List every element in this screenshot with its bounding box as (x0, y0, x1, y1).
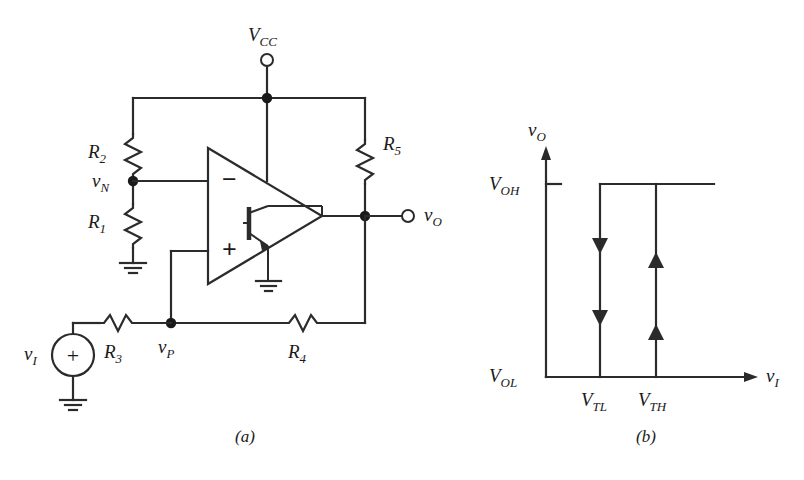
ground-symbol-r1 (120, 263, 146, 273)
resistor-R5-symbol (357, 140, 373, 184)
opamp-noninverting-sign: + (222, 235, 237, 264)
plot-label-VTL: VTL (581, 389, 607, 414)
up-arrow-icon-lower (648, 324, 664, 340)
resistor-R3-symbol (100, 315, 136, 331)
plot-label-VOH: VOH (489, 173, 520, 198)
plot-panel: vO vI VOH VOL VTL VTH (b) (489, 119, 779, 446)
plot-label-VOL: VOL (489, 365, 517, 390)
label-vcc: VCC (248, 24, 277, 49)
resistor-R1-symbol (125, 204, 141, 248)
source-polarity-sign: + (67, 343, 79, 368)
plot-label-VTH: VTH (638, 389, 667, 414)
resistor-R2-symbol (125, 134, 141, 178)
up-arrow-icon-upper (648, 252, 664, 268)
label-R2: R2 (87, 141, 107, 166)
ground-symbol-emitter (256, 281, 281, 291)
caption-a: (a) (235, 427, 255, 446)
caption-b: (b) (636, 427, 656, 446)
label-R1: R1 (87, 211, 106, 236)
down-arrow-icon-upper (592, 238, 608, 254)
resistor-R4-symbol (285, 315, 321, 331)
label-R5: R5 (382, 133, 402, 158)
figure-container: − + (0, 0, 804, 480)
x-axis-arrow-icon (744, 372, 758, 382)
label-vO: vO (424, 204, 442, 229)
label-vN: vN (92, 170, 110, 195)
label-vI: vI (24, 343, 37, 368)
label-vP: vP (158, 336, 174, 361)
junction-dot-vcc (262, 93, 272, 103)
opamp-inverting-sign: − (222, 165, 237, 194)
label-R4: R4 (287, 341, 307, 366)
plot-label-x-axis: vI (766, 365, 779, 390)
ground-symbol-source (60, 400, 86, 410)
output-terminal-icon[interactable] (402, 210, 414, 222)
plot-label-y-axis: vO (528, 119, 546, 144)
circuit-panel: − + (24, 24, 442, 446)
label-R3: R3 (103, 341, 123, 366)
down-arrow-icon-lower (592, 310, 608, 326)
y-axis-arrow-icon (541, 146, 551, 160)
vcc-terminal-icon[interactable] (261, 54, 273, 66)
